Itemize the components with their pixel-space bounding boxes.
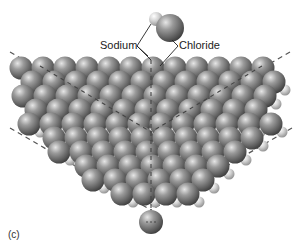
chloride-ion	[82, 169, 105, 192]
chloride-ion	[177, 183, 200, 206]
sodium-leader-line	[137, 24, 151, 56]
chloride-ion	[111, 183, 134, 206]
sodium-leader-line-2	[137, 46, 151, 60]
chloride-ion	[260, 113, 283, 136]
isolated-chloride-ion	[156, 14, 184, 42]
chloride-ion	[18, 113, 41, 136]
nacl-lattice-figure: Sodium Chloride (c)	[0, 0, 302, 252]
chloride-ion	[133, 183, 156, 206]
panel-label: (c)	[8, 230, 20, 240]
crystal-lattice-illustration	[0, 0, 302, 252]
sodium-label: Sodium	[100, 40, 137, 51]
chloride-ion	[48, 141, 71, 164]
chloride-ion	[155, 183, 178, 206]
chloride-label: Chloride	[179, 40, 220, 51]
